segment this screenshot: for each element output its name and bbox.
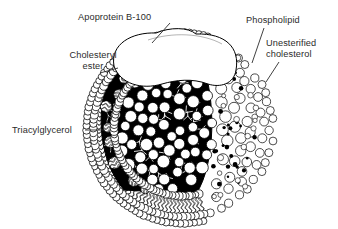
leader-line-unesterified-cholesterol (266, 62, 279, 82)
lipoprotein-figure: Apoprotein B-100PhospholipidUnesterified… (0, 0, 338, 229)
label-cholesteryl-ester: Cholesteryl ester (50, 50, 136, 72)
leader-line-phospholipid (252, 28, 264, 63)
label-leader-lines (0, 0, 338, 229)
label-phospholipid: Phospholipid (246, 15, 300, 26)
label-unesterified-cholesterol: Unesterified cholesterol (266, 38, 316, 60)
label-apoprotein: Apoprotein B-100 (78, 12, 151, 23)
label-triacylglycerol: Triacylglycerol (12, 125, 72, 136)
leader-line-apoprotein (152, 23, 170, 43)
